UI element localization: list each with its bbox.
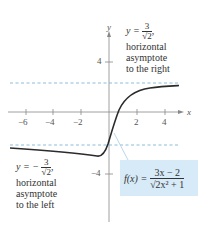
left-asymptote-line2: asymptote <box>16 188 57 199</box>
right-asymptote-prefix: y = <box>126 25 140 36</box>
x-tick-label: −2 <box>73 118 83 127</box>
x-tick-label: −4 <box>45 118 55 127</box>
right-asymptote-fraction: 3 √2 <box>142 22 151 41</box>
y-tick-label: 4 <box>97 57 102 66</box>
x-tick-label: 2 <box>134 118 139 127</box>
left-asymptote-fraction: 3 √2 <box>41 158 50 177</box>
right-asymptote-line2: asymptote <box>126 52 170 63</box>
x-axis-label: x <box>187 107 191 117</box>
right-asymptote-line1: horizontal <box>126 41 170 52</box>
left-asymptote-line3: to the left <box>16 199 57 210</box>
y-axis-label: y <box>107 22 111 32</box>
x-tick-label: −6 <box>18 118 28 127</box>
function-curve <box>10 86 179 157</box>
formula-leader-line <box>114 133 128 160</box>
function-denominator: √2x² + 1 <box>150 179 184 190</box>
right-asymptote-annotation: y = 3 √2 , horizontal asymptote to the r… <box>126 22 170 74</box>
function-fraction: 3x − 2 √2x² + 1 <box>150 167 184 190</box>
function-formula-box: f(x) = 3x − 2 √2x² + 1 <box>120 160 198 196</box>
x-tick-label: 4 <box>162 118 167 127</box>
x-axis-arrow-icon <box>178 110 184 114</box>
left-asymptote-annotation: y = − 3 √2 , horizontal asymptote to the… <box>16 158 57 210</box>
left-asymptote-line1: horizontal <box>16 177 57 188</box>
right-asymptote-line3: to the right <box>126 63 170 74</box>
left-asymptote-prefix: y = − <box>16 161 39 172</box>
function-label: f(x) = <box>124 173 147 184</box>
function-numerator: 3x − 2 <box>150 167 184 179</box>
y-tick-label: −4 <box>91 169 101 178</box>
